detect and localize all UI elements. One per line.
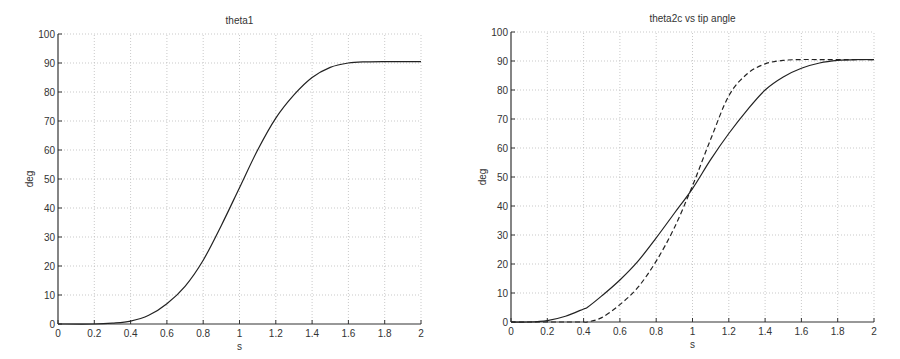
y-tick-label: 60	[497, 143, 509, 154]
grid	[58, 34, 421, 324]
y-tick-label: 80	[497, 85, 509, 96]
x-tick-label: 0.2	[540, 326, 554, 337]
x-tick-label: 0.8	[196, 328, 210, 339]
y-tick-label: 10	[497, 288, 509, 299]
x-tick-label: 0.6	[613, 326, 627, 337]
x-tick-label: 0	[508, 326, 514, 337]
grid	[511, 32, 874, 322]
x-tick-label: 1.2	[269, 328, 283, 339]
y-tick-label: 30	[497, 230, 509, 241]
y-tick-label: 60	[44, 145, 56, 156]
y-tick-label: 30	[44, 232, 56, 243]
y-tick-label: 40	[44, 203, 56, 214]
x-tick-label: 0	[55, 328, 61, 339]
plot-2: 00.20.40.60.811.21.41.61.820102030405060…	[477, 13, 877, 350]
x-tick-label: 1.4	[305, 328, 319, 339]
y-tick-label: 50	[44, 174, 56, 185]
x-tick-label: 1	[690, 326, 696, 337]
x-axis-label: s	[237, 341, 242, 352]
x-tick-label: 0.4	[577, 326, 591, 337]
y-axis-label: deg	[24, 171, 35, 188]
x-tick-label: 1	[237, 328, 243, 339]
y-tick-label: 100	[38, 29, 55, 40]
x-tick-label: 0.2	[87, 328, 101, 339]
chart-title: theta1	[226, 15, 254, 26]
x-tick-label: 0.4	[124, 328, 138, 339]
x-tick-label: 1.8	[831, 326, 845, 337]
y-tick-label: 0	[49, 319, 55, 330]
y-tick-label: 90	[497, 56, 509, 67]
x-tick-label: 2	[418, 328, 424, 339]
y-tick-label: 20	[44, 261, 56, 272]
y-tick-label: 70	[497, 114, 509, 125]
y-tick-label: 20	[497, 259, 509, 270]
x-axis-label: s	[690, 339, 695, 350]
y-axis-label: deg	[477, 169, 488, 186]
y-tick-label: 50	[497, 172, 509, 183]
x-tick-label: 1.6	[794, 326, 808, 337]
x-tick-label: 2	[871, 326, 877, 337]
plot-1: 00.20.40.60.811.21.41.61.820102030405060…	[24, 15, 424, 352]
x-tick-label: 0.6	[160, 328, 174, 339]
x-tick-label: 0.8	[649, 326, 663, 337]
x-tick-label: 1.8	[378, 328, 392, 339]
x-tick-label: 1.2	[722, 326, 736, 337]
y-tick-label: 100	[491, 27, 508, 38]
y-tick-label: 80	[44, 87, 56, 98]
y-tick-label: 0	[502, 317, 508, 328]
y-tick-label: 90	[44, 58, 56, 69]
y-tick-label: 10	[44, 290, 56, 301]
y-tick-label: 70	[44, 116, 56, 127]
x-tick-label: 1.6	[341, 328, 355, 339]
chart-canvas: 00.20.40.60.811.21.41.61.820102030405060…	[0, 0, 900, 359]
chart-title: theta2c vs tip angle	[649, 13, 736, 24]
x-tick-label: 1.4	[758, 326, 772, 337]
y-tick-label: 40	[497, 201, 509, 212]
